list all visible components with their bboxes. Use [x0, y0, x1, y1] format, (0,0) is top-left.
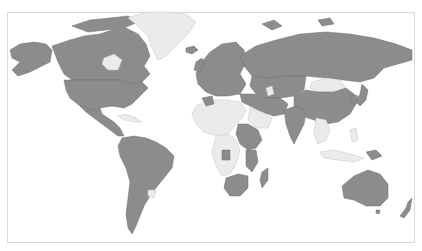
region-papua[interactable]: [366, 150, 382, 160]
region-australia[interactable]: [342, 170, 388, 206]
region-madagascar[interactable]: [260, 168, 268, 188]
region-usa[interactable]: [64, 80, 148, 110]
region-mexico-central-america[interactable]: [80, 106, 124, 136]
region-india[interactable]: [284, 106, 306, 144]
region-russia[interactable]: [240, 32, 412, 82]
region-iceland[interactable]: [186, 46, 198, 54]
region-south-america[interactable]: [118, 136, 174, 234]
region-southern-africa[interactable]: [224, 174, 248, 196]
world-map: [0, 0, 422, 251]
region-alaska[interactable]: [10, 42, 52, 76]
region-angola[interactable]: [222, 150, 230, 160]
region-europe[interactable]: [196, 42, 246, 96]
region-japan[interactable]: [356, 84, 368, 106]
region-tasmania[interactable]: [376, 210, 380, 214]
region-east-africa[interactable]: [246, 150, 258, 172]
region-canada[interactable]: [52, 28, 150, 84]
region-new-zealand[interactable]: [400, 198, 412, 218]
region-russia-arctic-islands[interactable]: [262, 18, 334, 30]
region-caribbean[interactable]: [118, 114, 142, 122]
